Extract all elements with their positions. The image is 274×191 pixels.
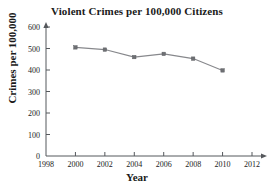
y-axis: 0100200300400500600 [28, 22, 50, 161]
x-tick-label: 1998 [38, 160, 54, 169]
y-tick-label: 100 [28, 131, 40, 140]
y-tick-label: 400 [28, 66, 40, 75]
x-axis: 19982000200220042006200820102012 [38, 152, 267, 169]
y-tick-label: 500 [28, 45, 40, 54]
x-tick-label: 2002 [97, 160, 113, 169]
x-tick-label: 2006 [156, 160, 172, 169]
x-tick-label: 2008 [185, 160, 201, 169]
data-point [103, 48, 106, 51]
data-point [162, 52, 165, 55]
chart-figure: Violent Crimes per 100,000 Citizens Crim… [0, 0, 274, 191]
data-point [74, 46, 77, 49]
x-tick-label: 2004 [126, 160, 142, 169]
y-tick-label: 200 [28, 109, 40, 118]
data-point [221, 69, 224, 72]
y-tick-label: 600 [28, 23, 40, 32]
data-point [191, 57, 194, 60]
x-tick-label: 2012 [244, 160, 260, 169]
y-tick-label: 300 [28, 88, 40, 97]
data-series [74, 46, 225, 72]
series-line [75, 47, 222, 70]
x-tick-label: 2000 [67, 160, 83, 169]
plot-area: 0100200300400500600 19982000200220042006… [0, 0, 274, 191]
x-tick-label: 2010 [215, 160, 231, 169]
data-point [133, 55, 136, 58]
